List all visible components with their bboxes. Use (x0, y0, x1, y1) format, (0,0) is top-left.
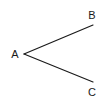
ray-ab (24, 25, 93, 54)
label-vertex-a: A (11, 48, 19, 60)
ray-ac (24, 54, 93, 82)
label-point-b: B (88, 9, 95, 21)
label-point-c: C (88, 86, 96, 98)
angle-diagram: A B C (0, 0, 102, 102)
